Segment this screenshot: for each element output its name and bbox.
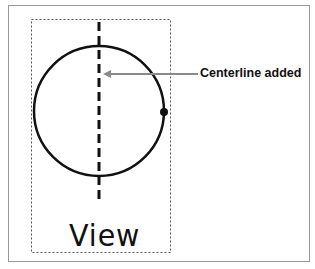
callout-arrowhead-icon — [103, 70, 111, 78]
callout-label: Centerline added — [200, 66, 301, 80]
view-label: View — [69, 217, 140, 253]
drawing-canvas — [0, 0, 315, 269]
point-marker — [160, 108, 168, 116]
